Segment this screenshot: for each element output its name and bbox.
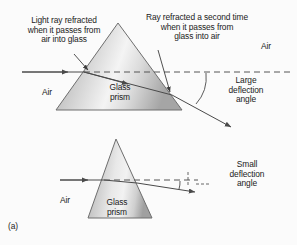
label-ray-refracted-second-time: Ray refracted a second time when it pass…	[124, 13, 270, 42]
figure-part-label: (a)	[8, 222, 30, 232]
label-air-left-top: Air	[34, 88, 60, 98]
label-air-right-top: Air	[252, 42, 280, 52]
label-small-deflection-angle: Small deflection angle	[216, 160, 278, 189]
label-glass-prism-top: Glass prism	[96, 83, 144, 102]
label-glass-prism-bottom: Glass prism	[92, 198, 142, 217]
label-air-left-bottom: Air	[52, 196, 78, 206]
label-light-ray-refracted-in: Light ray refracted when it passes from …	[6, 16, 122, 45]
label-large-deflection-angle: Large deflection angle	[216, 76, 276, 105]
